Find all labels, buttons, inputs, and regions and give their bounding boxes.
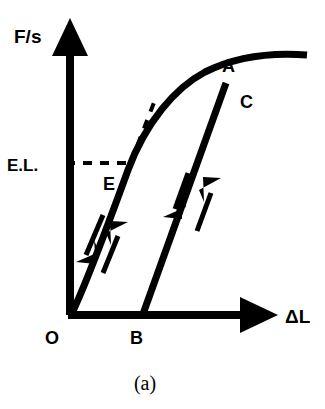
x-axis-label: ΔL bbox=[285, 306, 311, 327]
stress-strain-figure: F/s ΔL E.L. O B E A C (a) bbox=[0, 0, 325, 409]
point-c-label: C bbox=[240, 92, 253, 112]
flow-arrow-bc-up bbox=[197, 177, 221, 231]
y-axis-arrowhead-icon bbox=[52, 18, 88, 56]
stress-strain-plot: F/s ΔL E.L. O B E A C (a) bbox=[0, 0, 325, 409]
point-b-label: B bbox=[130, 328, 143, 348]
elastic-limit-label: E.L. bbox=[7, 156, 38, 175]
point-a-label: A bbox=[222, 56, 235, 76]
x-axis-arrowhead-icon bbox=[240, 297, 278, 333]
point-e-label: E bbox=[103, 174, 115, 194]
flow-arrow-bc-up-shaft bbox=[197, 193, 211, 231]
y-axis-label: F/s bbox=[14, 26, 41, 47]
origin-label: O bbox=[45, 328, 59, 348]
figure-caption: (a) bbox=[134, 372, 156, 395]
